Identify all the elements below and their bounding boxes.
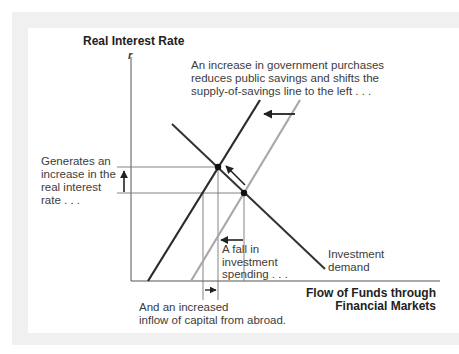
gov-purchases-note-line1: An increase in government purchases [191, 59, 384, 72]
rate-note-line2: increase in the [41, 168, 116, 181]
original-equilibrium-dot [241, 190, 247, 196]
y-axis-label: Real Interest Rate [83, 35, 184, 48]
investment-fall-note-line3: spending . . . [222, 268, 288, 281]
investment-fall-note-line1: A fall in [222, 243, 259, 256]
investment-demand-label-line1: Investment [328, 248, 384, 261]
capital-inflow-note-line1: And an increased [139, 301, 229, 314]
rate-note-line1: Generates an [41, 155, 111, 168]
rate-note-line3: real interest [41, 181, 101, 194]
y-axis-symbol: r [128, 49, 132, 62]
new-equilibrium-dot [215, 164, 221, 170]
movement-along-demand-arrow [226, 166, 245, 185]
gov-purchases-note-line2: reduces public savings and shifts the [191, 72, 379, 85]
gov-purchases-note-line3: supply-of-savings line to the left . . . [191, 85, 371, 98]
investment-demand-label-line2: demand [328, 261, 370, 274]
rate-note-line4: rate . . . [41, 194, 80, 207]
x-axis-label-line2: Financial Markets [296, 300, 436, 313]
capital-inflow-note-line2: inflow of capital from abroad. [139, 314, 286, 327]
